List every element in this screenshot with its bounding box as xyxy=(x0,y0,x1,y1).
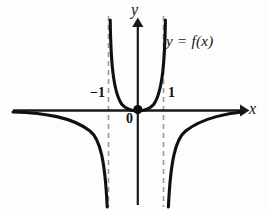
origin-label: 0 xyxy=(126,112,133,126)
graph-canvas xyxy=(0,0,269,210)
function-curve-label: y = f(x) xyxy=(166,34,214,49)
y-axis-label: y xyxy=(131,2,138,18)
curve-right-branch xyxy=(168,112,242,207)
x-tick-label-positive-one: 1 xyxy=(168,86,175,100)
function-graph-figure: y x −1 1 0 y = f(x) xyxy=(0,0,269,210)
curve-left-branch xyxy=(13,112,107,207)
x-axis-label: x xyxy=(249,101,256,117)
y-axis-arrowhead xyxy=(132,18,143,28)
x-tick-label-negative-one: −1 xyxy=(90,86,105,100)
origin-point-marker xyxy=(133,105,142,114)
